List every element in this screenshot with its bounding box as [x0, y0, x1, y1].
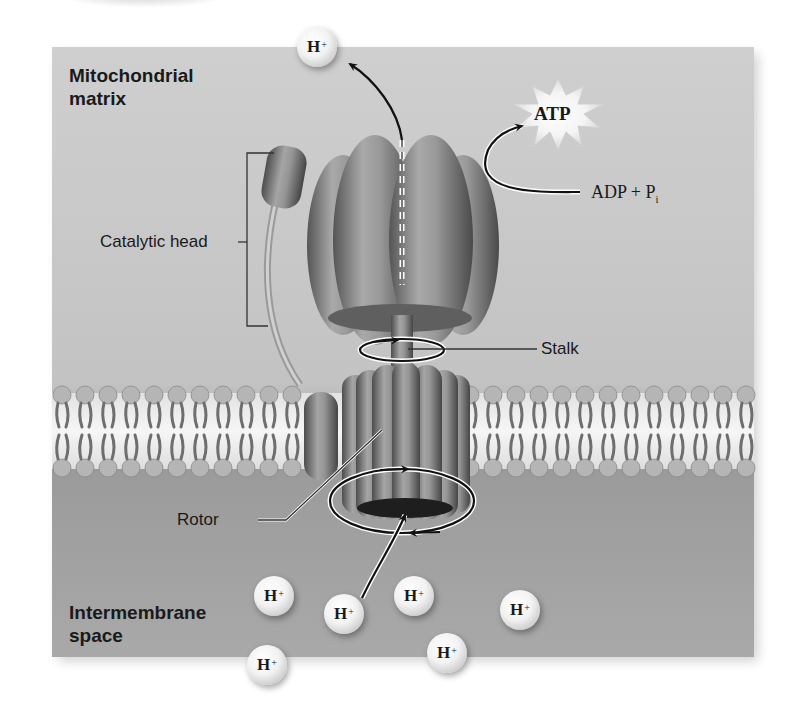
- matrix-label-line2: matrix: [69, 87, 194, 110]
- proton-ims-1: H+: [254, 576, 294, 616]
- proton-ims-2: H+: [324, 594, 364, 634]
- adp-pi-base: ADP + P: [591, 182, 656, 202]
- proton-symbol: H: [404, 586, 417, 606]
- proton-matrix: H+: [297, 27, 337, 67]
- rotor-shape: [342, 362, 470, 520]
- proton-symbol: H: [510, 600, 523, 620]
- proton-charge: +: [418, 588, 424, 599]
- catalytic-head-label: Catalytic head: [100, 232, 208, 252]
- intermembrane-label-line1: Intermembrane: [69, 601, 206, 624]
- rotor-label: Rotor: [177, 510, 219, 530]
- proton-ims-3: H+: [394, 576, 434, 616]
- proton-charge: +: [321, 39, 327, 50]
- proton-symbol: H: [257, 655, 270, 675]
- atp-label: ATP: [534, 103, 571, 125]
- proton-charge: +: [451, 645, 457, 656]
- adp-pi-label: ADP + Pi: [591, 182, 659, 205]
- atp-synthase-diagram: Mitochondrial matrix Intermembrane space…: [0, 0, 796, 714]
- b-subunit: [304, 392, 338, 480]
- proton-symbol: H: [264, 586, 277, 606]
- proton-charge: +: [348, 606, 354, 617]
- proton-ims-6: H+: [427, 633, 467, 673]
- pi-subscript: i: [656, 193, 659, 205]
- matrix-label-line1: Mitochondrial: [69, 64, 194, 87]
- proton-symbol: H: [437, 643, 450, 663]
- stalk-label: Stalk: [541, 339, 579, 359]
- proton-ims-4: H+: [500, 590, 540, 630]
- matrix-label: Mitochondrial matrix: [69, 64, 194, 110]
- intermembrane-label-line2: space: [69, 624, 206, 647]
- catalytic-head-shape: [307, 135, 499, 345]
- proton-ims-5: H+: [247, 645, 287, 685]
- proton-charge: +: [278, 588, 284, 599]
- proton-symbol: H: [334, 604, 347, 624]
- proton-charge: +: [524, 602, 530, 613]
- proton-symbol: H: [307, 37, 320, 57]
- proton-charge: +: [271, 657, 277, 668]
- intermembrane-label: Intermembrane space: [69, 601, 206, 647]
